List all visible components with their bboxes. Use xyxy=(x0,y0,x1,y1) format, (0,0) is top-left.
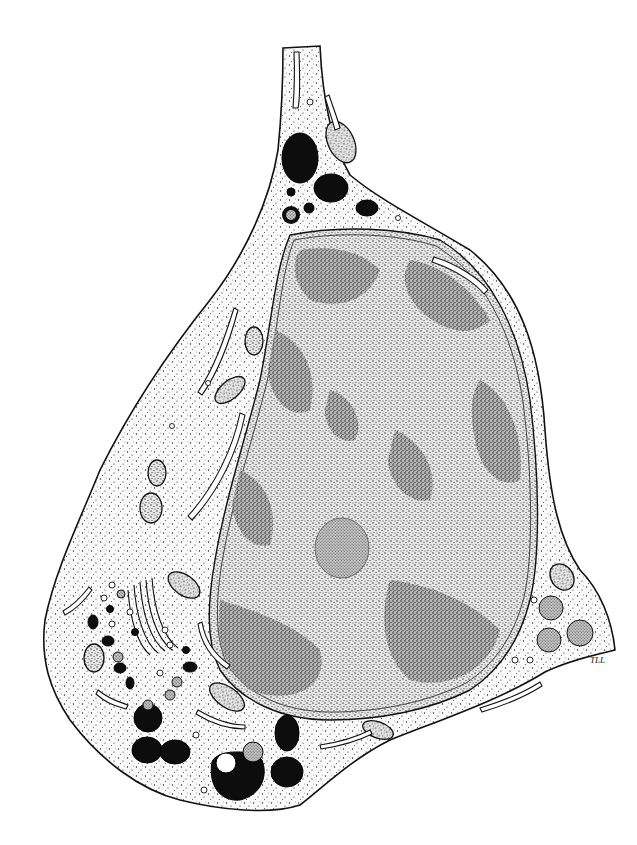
lipid-droplet xyxy=(216,753,236,773)
granule-stippled xyxy=(243,742,263,762)
nucleolus xyxy=(315,518,369,578)
artist-signature: TLL xyxy=(590,655,605,665)
cell-illustration xyxy=(0,0,637,845)
small-dense-body xyxy=(282,206,300,224)
